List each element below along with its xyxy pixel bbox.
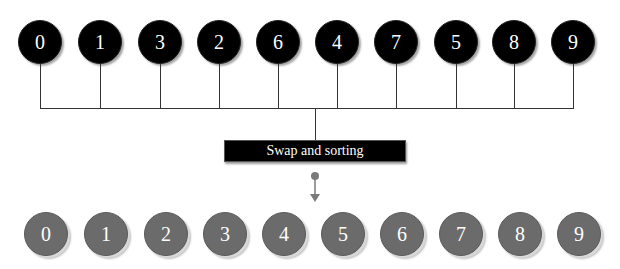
node-connector <box>514 64 515 108</box>
process-label: Swap and sorting <box>224 140 406 162</box>
output-node: 3 <box>203 212 247 256</box>
output-node: 0 <box>24 212 68 256</box>
bus-to-label-line <box>315 108 316 140</box>
arrow-head <box>310 194 320 202</box>
node-connector <box>100 64 101 108</box>
input-node: 4 <box>315 20 359 64</box>
input-node: 7 <box>374 20 418 64</box>
node-connector <box>337 64 338 108</box>
node-connector <box>160 64 161 108</box>
node-connector <box>396 64 397 108</box>
output-node: 2 <box>144 212 188 256</box>
output-node: 1 <box>84 212 128 256</box>
node-connector <box>40 64 41 108</box>
output-node: 9 <box>557 212 601 256</box>
input-node: 0 <box>18 20 62 64</box>
node-connector <box>219 64 220 108</box>
input-node: 9 <box>551 20 595 64</box>
output-node: 6 <box>380 212 424 256</box>
bus-line <box>40 108 574 109</box>
down-arrow-icon <box>305 168 325 206</box>
node-connector <box>278 64 279 108</box>
input-node: 3 <box>138 20 182 64</box>
output-node: 8 <box>498 212 542 256</box>
node-connector <box>573 64 574 108</box>
input-node: 8 <box>492 20 536 64</box>
output-node: 5 <box>321 212 365 256</box>
output-node: 4 <box>262 212 306 256</box>
input-node: 5 <box>434 20 478 64</box>
input-node: 2 <box>197 20 241 64</box>
input-node: 6 <box>256 20 300 64</box>
input-node: 1 <box>78 20 122 64</box>
output-node: 7 <box>439 212 483 256</box>
node-connector <box>456 64 457 108</box>
